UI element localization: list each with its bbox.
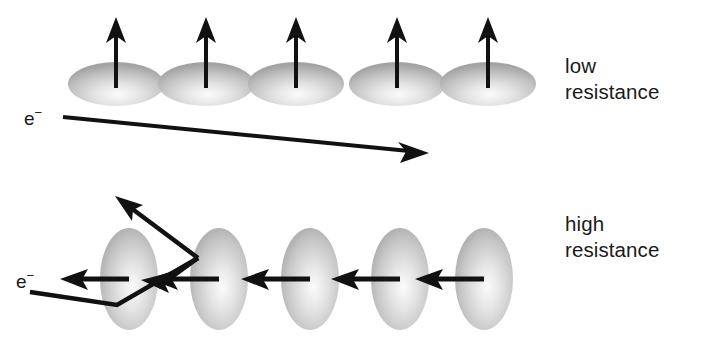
- top-domain-ellipses: [68, 62, 536, 106]
- electron-straight-path-arrow: [63, 117, 429, 163]
- electron-superscript: −: [35, 105, 43, 120]
- electron-superscript: −: [27, 268, 35, 283]
- electron-symbol: e: [16, 271, 27, 292]
- low-resistance-label-line2: resistance: [565, 80, 659, 103]
- bottom-panel-group: e− high resistance: [16, 196, 659, 330]
- gmr-resistance-diagram: e− low resistance: [0, 0, 710, 349]
- high-resistance-label-line1: high: [565, 212, 604, 235]
- electron-label-top: e−: [24, 105, 42, 129]
- electron-symbol: e: [24, 108, 35, 129]
- scatter-arrowhead-upleft: [115, 196, 143, 221]
- high-resistance-label-line2: resistance: [565, 238, 659, 261]
- electron-label-bottom: e−: [16, 268, 34, 292]
- diagram-canvas: e− low resistance: [0, 0, 710, 349]
- low-resistance-label-line1: low: [565, 54, 596, 77]
- top-panel-group: e− low resistance: [24, 17, 659, 163]
